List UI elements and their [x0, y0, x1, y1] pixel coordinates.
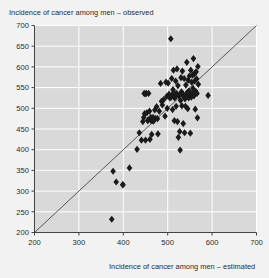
x-axis-title: Incidence of cancer among men – estimate…: [109, 262, 255, 271]
y-tick-label: 300: [16, 187, 29, 196]
y-tick-label: 650: [16, 42, 29, 51]
y-tick-label: 500: [16, 104, 29, 113]
y-tick-label: 700: [16, 21, 29, 30]
y-tick-label: 250: [16, 208, 29, 217]
cancer-incidence-scatter-chart: Incidence of cancer among men – observed…: [0, 0, 269, 278]
x-tick-label: 400: [117, 238, 130, 247]
y-tick-label: 600: [16, 63, 29, 72]
y-tick-label: 350: [16, 166, 29, 175]
x-tick-label: 600: [206, 238, 219, 247]
x-tick-label: 200: [28, 238, 41, 247]
x-tick-label: 700: [250, 238, 263, 247]
y-tick-label: 400: [16, 145, 29, 154]
y-tick-label: 450: [16, 125, 29, 134]
y-tick-label: 200: [16, 228, 29, 237]
plot-canvas: 2002503003504004505005506006507002003004…: [0, 0, 269, 278]
y-tick-label: 550: [16, 83, 29, 92]
x-tick-label: 500: [161, 238, 174, 247]
x-tick-label: 300: [73, 238, 86, 247]
